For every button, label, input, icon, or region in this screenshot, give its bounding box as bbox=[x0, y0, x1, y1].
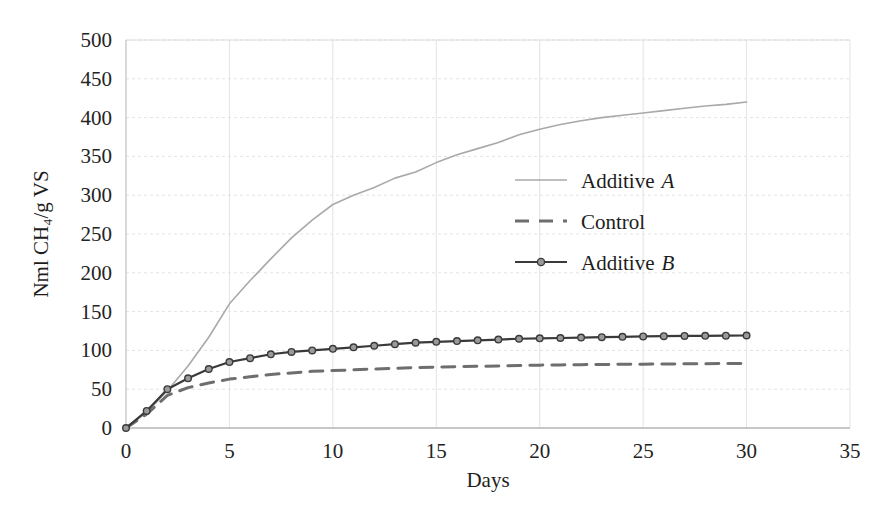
series-marker bbox=[185, 375, 192, 382]
series-marker bbox=[350, 344, 357, 351]
y-tick-label: 0 bbox=[102, 416, 113, 440]
series-marker bbox=[495, 336, 502, 343]
chart-container: 050100150200250300350400450500 051015202… bbox=[0, 0, 885, 512]
legend-label-text: Control bbox=[581, 210, 645, 234]
y-axis-title: Nml CH₄/g VS bbox=[29, 170, 53, 297]
series-marker bbox=[454, 338, 461, 345]
x-tick-label: 20 bbox=[529, 439, 550, 463]
series-marker bbox=[226, 359, 233, 366]
y-tick-label: 300 bbox=[81, 183, 113, 207]
legend-swatch-marker-3 bbox=[537, 258, 544, 265]
y-tick-label: 150 bbox=[81, 300, 113, 324]
y-tick-label: 200 bbox=[81, 261, 113, 285]
series-marker bbox=[288, 349, 295, 356]
series-marker bbox=[123, 425, 130, 432]
series-marker bbox=[619, 334, 626, 341]
legend-label-italic: A bbox=[660, 169, 675, 193]
series-marker bbox=[205, 366, 212, 373]
x-tick-label: 25 bbox=[633, 439, 654, 463]
y-tick-label: 50 bbox=[91, 377, 112, 401]
series-marker bbox=[661, 333, 668, 340]
y-tick-label: 500 bbox=[81, 28, 113, 52]
series-marker bbox=[433, 339, 440, 346]
series-marker bbox=[702, 333, 709, 340]
series-marker bbox=[392, 341, 399, 348]
series-marker bbox=[536, 335, 543, 342]
x-tick-label: 5 bbox=[224, 439, 235, 463]
line-chart: 050100150200250300350400450500 051015202… bbox=[0, 0, 885, 512]
legend-label-italic: B bbox=[662, 251, 675, 275]
y-tick-label: 250 bbox=[81, 222, 113, 246]
series-marker bbox=[578, 334, 585, 341]
legend-label-2[interactable]: Control bbox=[581, 210, 645, 234]
series-marker bbox=[557, 335, 564, 342]
y-tick-label: 450 bbox=[81, 67, 113, 91]
y-axis-tick-labels: 050100150200250300350400450500 bbox=[81, 28, 113, 440]
series-marker bbox=[412, 339, 419, 346]
series-marker bbox=[723, 332, 730, 339]
series-marker bbox=[164, 386, 171, 393]
x-tick-label: 15 bbox=[426, 439, 447, 463]
legend-label-text: Additive bbox=[581, 251, 655, 275]
series-marker bbox=[516, 335, 523, 342]
y-tick-label: 100 bbox=[81, 338, 113, 362]
series-marker bbox=[640, 333, 647, 340]
series-marker bbox=[309, 347, 316, 354]
series-marker bbox=[143, 408, 150, 415]
series-marker bbox=[598, 334, 605, 341]
series-marker bbox=[743, 332, 750, 339]
y-tick-label: 400 bbox=[81, 106, 113, 130]
series-marker bbox=[371, 342, 378, 349]
x-axis-title: Days bbox=[466, 468, 509, 492]
legend-label-text: Additive bbox=[581, 169, 655, 193]
series-marker bbox=[247, 355, 254, 362]
series-marker bbox=[474, 337, 481, 344]
series-marker bbox=[330, 346, 337, 353]
x-axis-tick-labels: 05101520253035 bbox=[121, 439, 861, 463]
x-tick-label: 0 bbox=[121, 439, 132, 463]
series-marker bbox=[681, 333, 688, 340]
x-tick-label: 10 bbox=[322, 439, 343, 463]
series-marker bbox=[268, 351, 275, 358]
x-tick-label: 35 bbox=[840, 439, 861, 463]
x-tick-label: 30 bbox=[736, 439, 757, 463]
y-tick-label: 350 bbox=[81, 144, 113, 168]
